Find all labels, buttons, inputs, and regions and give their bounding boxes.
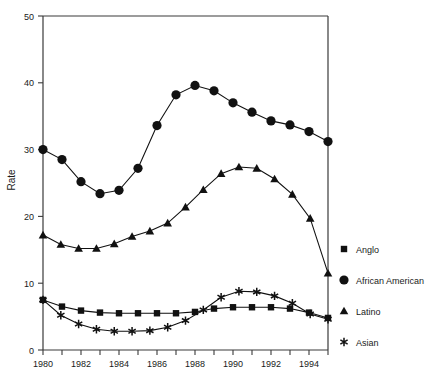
chart-background (0, 0, 428, 385)
x-tick-label: 1984 (109, 359, 129, 369)
x-tick-label: 1982 (71, 359, 91, 369)
data-point-marker (171, 90, 180, 99)
legend-marker-circle-icon (339, 275, 348, 284)
data-point-marker (114, 186, 123, 195)
data-point-marker (247, 108, 256, 117)
data-point-marker (209, 86, 218, 95)
data-point-marker (97, 309, 103, 315)
x-tick-label: 1980 (33, 359, 53, 369)
x-tick-label: 1992 (261, 359, 281, 369)
legend-item-label: Asian (356, 338, 379, 348)
x-tick-label: 1990 (223, 359, 243, 369)
data-point-marker (152, 121, 161, 130)
data-point-marker (57, 155, 66, 164)
data-point-marker (78, 307, 84, 313)
legend-item-label: Latino (356, 307, 381, 317)
data-point-marker (38, 145, 47, 154)
data-point-marker (266, 116, 275, 125)
x-tick-label: 1986 (147, 359, 167, 369)
data-point-marker (154, 310, 160, 316)
data-point-marker (59, 303, 65, 309)
y-axis-title-label: Rate (6, 169, 17, 191)
data-point-marker (228, 98, 237, 107)
legend-marker-square-icon (341, 246, 347, 252)
data-point-marker (211, 305, 217, 311)
x-tick-label: 1988 (185, 359, 205, 369)
data-point-marker (323, 137, 332, 146)
data-point-marker (285, 120, 294, 129)
data-point-marker (230, 304, 236, 310)
legend-item-label: Anglo (356, 245, 379, 255)
y-axis-title: Rate (6, 169, 17, 191)
data-point-marker (249, 304, 255, 310)
data-point-marker (268, 304, 274, 310)
data-point-marker (190, 81, 199, 90)
y-tick-label: 10 (24, 279, 34, 289)
chart-container: Rate 01020304050 19801982198419861988199… (0, 0, 428, 385)
data-point-marker (76, 177, 85, 186)
data-point-marker (95, 189, 104, 198)
y-tick-label: 30 (24, 145, 34, 155)
x-tick-label: 1994 (299, 359, 319, 369)
y-tick-label: 20 (24, 212, 34, 222)
y-tick-label: 40 (24, 78, 34, 88)
data-point-marker (135, 310, 141, 316)
legend-item-label: African American (356, 276, 424, 286)
data-point-marker (133, 164, 142, 173)
y-tick-label: 50 (24, 12, 34, 22)
data-point-marker (173, 310, 179, 316)
y-tick-label: 0 (29, 346, 34, 356)
data-point-marker (116, 310, 122, 316)
data-point-marker (304, 127, 313, 136)
line-chart: Rate 01020304050 19801982198419861988199… (0, 0, 428, 385)
